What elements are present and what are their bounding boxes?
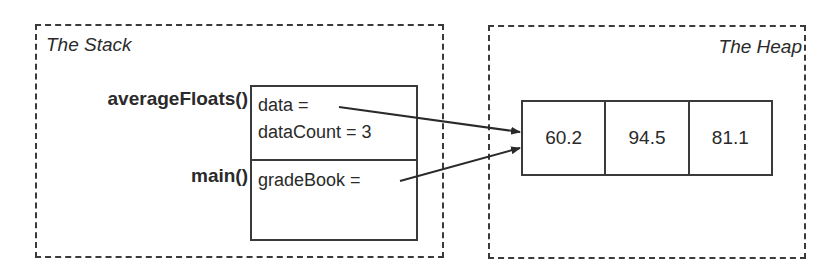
- array-cell: 81.1: [690, 102, 771, 174]
- stack-title: The Stack: [46, 34, 132, 56]
- variable-data: data =: [258, 95, 309, 116]
- heap-title: The Heap: [719, 36, 802, 58]
- frame-label-main: main(): [48, 165, 248, 187]
- variable-datacount: dataCount = 3: [258, 122, 372, 143]
- frame-label-averagefloats: averageFloats(): [48, 88, 248, 110]
- heap-array: 60.2 94.5 81.1: [521, 100, 773, 176]
- array-cell: 94.5: [606, 102, 689, 174]
- array-cell: 60.2: [523, 102, 606, 174]
- variable-gradebook: gradeBook =: [258, 170, 361, 191]
